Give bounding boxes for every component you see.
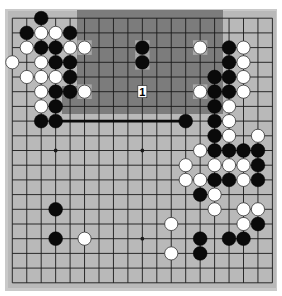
white-stone[interactable] xyxy=(165,217,178,230)
white-stone[interactable] xyxy=(194,144,207,157)
black-stone[interactable] xyxy=(222,55,236,69)
white-stone[interactable] xyxy=(237,159,250,172)
black-stone[interactable] xyxy=(193,188,207,202)
white-stone[interactable] xyxy=(222,100,235,113)
black-stone[interactable] xyxy=(222,232,236,246)
white-stone[interactable] xyxy=(237,70,250,83)
black-stone[interactable] xyxy=(222,70,236,84)
black-stone[interactable] xyxy=(251,173,265,187)
white-stone[interactable] xyxy=(35,26,48,39)
white-stone[interactable] xyxy=(208,159,221,172)
black-stone[interactable] xyxy=(251,217,265,231)
white-stone[interactable] xyxy=(49,26,62,39)
go-board[interactable]: 1 xyxy=(0,0,282,296)
black-stone[interactable] xyxy=(179,114,193,128)
move-number-label: 1 xyxy=(139,86,145,98)
black-stone[interactable] xyxy=(49,85,63,99)
black-stone[interactable] xyxy=(63,70,77,84)
white-stone[interactable] xyxy=(35,85,48,98)
black-stone[interactable] xyxy=(208,85,222,99)
white-stone[interactable] xyxy=(222,159,235,172)
black-stone[interactable] xyxy=(251,158,265,172)
white-stone[interactable] xyxy=(35,56,48,69)
black-stone[interactable] xyxy=(208,70,222,84)
black-stone[interactable] xyxy=(63,55,77,69)
black-stone[interactable] xyxy=(208,173,222,187)
white-stone[interactable] xyxy=(6,56,19,69)
white-stone[interactable] xyxy=(20,41,33,54)
black-stone[interactable] xyxy=(20,26,34,40)
black-stone[interactable] xyxy=(34,41,48,55)
black-stone[interactable] xyxy=(49,55,63,69)
black-stone[interactable] xyxy=(49,100,63,114)
white-stone[interactable] xyxy=(49,70,62,83)
white-stone[interactable] xyxy=(237,203,250,216)
white-stone[interactable] xyxy=(208,203,221,216)
white-stone[interactable] xyxy=(165,247,178,260)
white-stone[interactable] xyxy=(237,41,250,54)
black-stone[interactable] xyxy=(251,144,265,158)
black-stone[interactable] xyxy=(135,41,149,55)
white-stone[interactable] xyxy=(78,232,91,245)
white-stone[interactable] xyxy=(222,115,235,128)
white-stone[interactable] xyxy=(237,85,250,98)
white-stone[interactable] xyxy=(35,100,48,113)
black-stone[interactable] xyxy=(193,232,207,246)
white-stone[interactable] xyxy=(78,41,91,54)
white-stone[interactable] xyxy=(194,173,207,186)
white-stone[interactable] xyxy=(20,70,33,83)
black-stone[interactable] xyxy=(49,202,63,216)
black-stone[interactable] xyxy=(34,11,48,25)
black-stone[interactable] xyxy=(49,41,63,55)
white-stone[interactable] xyxy=(251,203,264,216)
black-stone[interactable] xyxy=(222,173,236,187)
white-stone[interactable] xyxy=(237,56,250,69)
star-point xyxy=(140,237,144,241)
black-stone[interactable] xyxy=(222,144,236,158)
go-board-svg[interactable]: 1 xyxy=(0,0,282,296)
black-stone[interactable] xyxy=(34,114,48,128)
white-stone[interactable] xyxy=(208,188,221,201)
black-stone[interactable] xyxy=(63,85,77,99)
black-stone[interactable] xyxy=(208,114,222,128)
white-stone[interactable] xyxy=(194,41,207,54)
black-stone[interactable] xyxy=(63,26,77,40)
white-stone[interactable] xyxy=(194,85,207,98)
black-stone[interactable] xyxy=(208,144,222,158)
star-point xyxy=(140,149,144,153)
white-stone[interactable] xyxy=(222,129,235,142)
star-point xyxy=(54,149,58,153)
white-stone[interactable] xyxy=(251,129,264,142)
black-stone[interactable] xyxy=(49,114,63,128)
black-stone[interactable] xyxy=(237,144,251,158)
white-stone[interactable] xyxy=(35,70,48,83)
black-stone[interactable] xyxy=(237,232,251,246)
white-stone[interactable] xyxy=(237,217,250,230)
black-stone[interactable] xyxy=(135,55,149,69)
black-stone[interactable] xyxy=(222,41,236,55)
white-stone[interactable] xyxy=(237,173,250,186)
black-stone[interactable] xyxy=(193,247,207,261)
label-markers: 1 xyxy=(138,86,147,98)
black-stone[interactable] xyxy=(208,129,222,143)
white-stone[interactable] xyxy=(179,159,192,172)
black-stone[interactable] xyxy=(222,85,236,99)
white-stone[interactable] xyxy=(179,173,192,186)
black-stone[interactable] xyxy=(49,232,63,246)
white-stone[interactable] xyxy=(78,85,91,98)
white-stone[interactable] xyxy=(64,41,77,54)
black-stone[interactable] xyxy=(208,100,222,114)
